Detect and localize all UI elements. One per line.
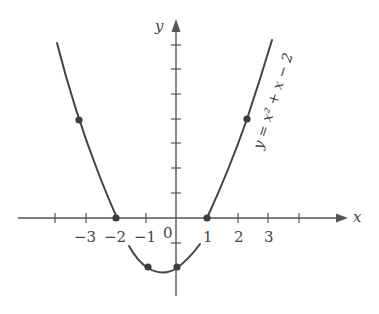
x-tick-label-3: 3 (264, 228, 274, 246)
x-tick-label-minus3: −3 (74, 228, 96, 246)
point-1-0 (203, 214, 210, 221)
parabola-left-branch (57, 43, 118, 220)
x-axis-label: x (353, 208, 362, 226)
point-2-4 (243, 115, 250, 122)
point-minus1-minus2 (144, 263, 151, 270)
plotted-points (75, 115, 250, 270)
x-tick-label-minus2: −2 (104, 228, 126, 246)
parabola-bottom-segment (129, 244, 200, 273)
origin-label: 0 (163, 224, 173, 242)
point-0-minus2 (173, 263, 180, 270)
x-tick-label-2: 2 (234, 228, 244, 246)
x-tick-label-1: 1 (203, 228, 213, 246)
point-minus2-0 (112, 214, 119, 221)
equation-label: y = x² + x − 2 (249, 51, 295, 152)
point-minus3-4 (75, 116, 82, 123)
x-tick-label-minus1: −1 (134, 228, 156, 246)
y-axis-arrow-icon (172, 19, 181, 32)
y-axis-label: y (154, 17, 164, 35)
parabola-graph: −3 −2 −1 0 1 2 3 x y y = x² + x − 2 (0, 0, 379, 314)
x-axis-arrow-icon (336, 214, 348, 223)
